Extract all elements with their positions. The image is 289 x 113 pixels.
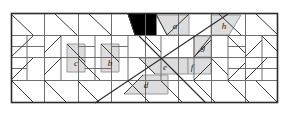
- tiling-svg: a b c d e f g h: [0, 0, 289, 113]
- label-c: c: [74, 58, 78, 68]
- label-h: h: [222, 21, 227, 31]
- label-d: d: [144, 80, 149, 90]
- label-b: b: [108, 58, 113, 68]
- label-a: a: [173, 21, 178, 31]
- label-g: g: [201, 42, 206, 52]
- label-e: e: [163, 62, 167, 72]
- tiling-figure: a b c d e f g h: [0, 0, 289, 113]
